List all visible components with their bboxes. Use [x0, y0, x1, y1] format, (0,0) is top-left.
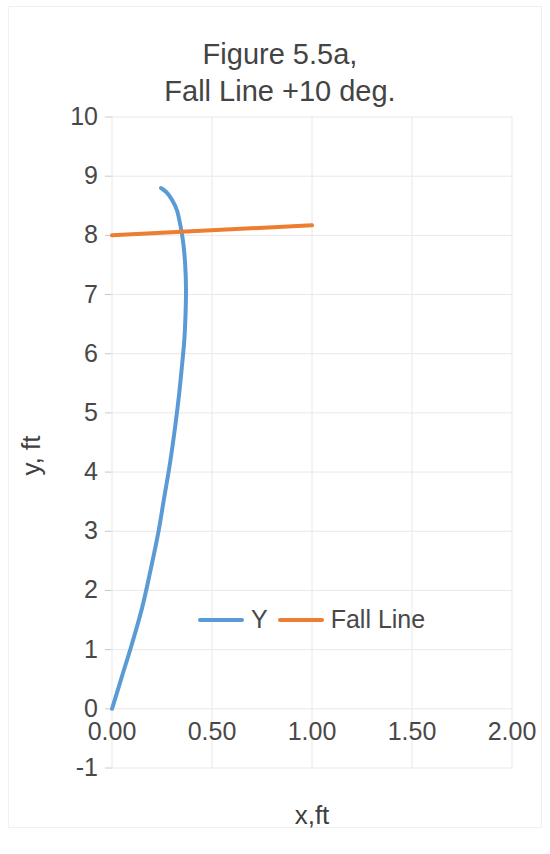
x-axis-tick-label: 0.50 — [162, 719, 262, 744]
y-axis-tick-label: 5 — [42, 400, 98, 425]
y-axis-tick-label: 1 — [42, 637, 98, 662]
y-axis-tick-label: 4 — [42, 459, 98, 484]
x-axis-title: x,ft — [112, 800, 512, 831]
y-axis-tick-label: 10 — [42, 104, 98, 129]
y-axis-tick-label: -1 — [42, 755, 98, 780]
chart-legend: YFall Line — [198, 607, 425, 632]
legend-entry[interactable]: Y — [198, 607, 268, 632]
y-axis-tick-label: 6 — [42, 341, 98, 366]
y-axis-tick-label: 7 — [42, 282, 98, 307]
legend-swatch-icon — [198, 618, 244, 622]
x-axis-tick-label: 1.50 — [362, 719, 462, 744]
x-axis-tick-label: 1.00 — [262, 719, 362, 744]
y-axis-tick-label: 2 — [42, 577, 98, 602]
grid-lines — [105, 117, 512, 768]
legend-entry[interactable]: Fall Line — [278, 607, 426, 632]
legend-label: Fall Line — [331, 607, 426, 632]
y-axis-tick-label: 8 — [42, 222, 98, 247]
x-axis-tick-label: 0.00 — [62, 719, 162, 744]
x-axis-tick-label: 2.00 — [462, 719, 550, 744]
y-axis-tick-label: 3 — [42, 518, 98, 543]
chart-container: Figure 5.5a,Fall Line +10 deg. 109876543… — [0, 0, 550, 854]
series-line-y — [112, 188, 186, 709]
legend-label: Y — [251, 607, 268, 632]
legend-swatch-icon — [278, 618, 324, 622]
y-axis-title: y, ft — [16, 401, 47, 511]
y-axis-tick-label: 9 — [42, 163, 98, 188]
